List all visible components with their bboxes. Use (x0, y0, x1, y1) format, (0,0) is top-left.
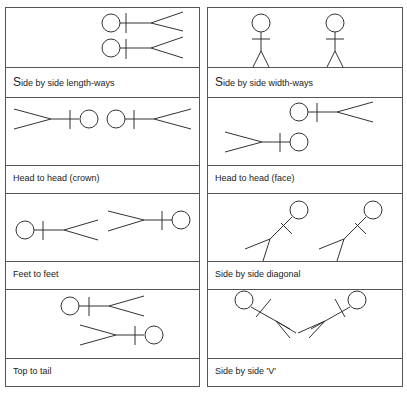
diagram-side-by-side-diagonal (208, 194, 402, 261)
right-table: Side by side width-ways Head to head (fa… (207, 7, 403, 387)
left-table: Side by side length-ways Head to head (c… (5, 7, 200, 387)
caption: Head to head (face) (208, 165, 402, 194)
caption: Feet to feet (6, 261, 199, 290)
diagram-side-by-side-length-ways (6, 8, 199, 67)
cell-side-by-side-diagonal: Side by side diagonal (208, 193, 402, 289)
diagram-side-by-side-v (208, 290, 402, 358)
cell-top-to-tail: Top to tail (6, 289, 199, 386)
diagram-head-to-head-crown (6, 98, 199, 165)
stick-figures-icon (6, 8, 201, 67)
caption: Side by side width-ways (208, 67, 402, 97)
stick-figures-icon (6, 290, 201, 358)
caption: Side by side 'V' (208, 358, 402, 387)
caption: Side by side diagonal (208, 261, 402, 290)
cell-side-by-side-v: Side by side 'V' (208, 289, 402, 386)
stick-figures-icon (208, 290, 404, 358)
diagram-feet-to-feet (6, 194, 199, 261)
stick-figures-icon (6, 98, 201, 165)
diagram-top-to-tail (6, 290, 199, 358)
stick-figures-icon (208, 8, 404, 67)
caption: Head to head (crown) (6, 165, 199, 194)
caption: Side by side length-ways (6, 67, 199, 97)
diagram-head-to-head-face (208, 98, 402, 165)
cell-head-to-head-face: Head to head (face) (208, 97, 402, 193)
cell-head-to-head-crown: Head to head (crown) (6, 97, 199, 193)
cell-feet-to-feet: Feet to feet (6, 193, 199, 289)
diagram-side-by-side-width-ways (208, 8, 402, 67)
caption: Top to tail (6, 358, 199, 387)
stick-figures-icon (208, 98, 404, 165)
stick-figures-icon (6, 194, 201, 261)
cell-side-by-side-width-ways: Side by side width-ways (208, 8, 402, 97)
cell-side-by-side-length-ways: Side by side length-ways (6, 8, 199, 97)
stick-figures-icon (208, 194, 404, 261)
